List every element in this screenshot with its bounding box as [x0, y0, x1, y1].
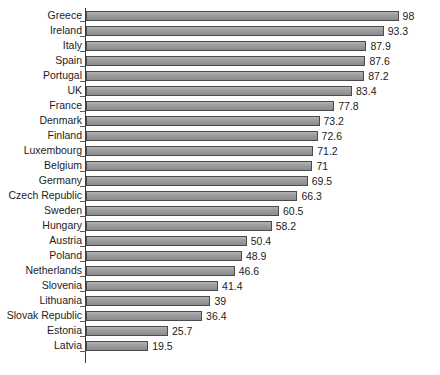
- bar-chart: Greece98Ireland93.3Italy87.9Spain87.6Por…: [0, 0, 440, 375]
- bar-value-label: 98: [403, 10, 415, 22]
- category-label: Hungary: [0, 220, 82, 231]
- bar-row: Lithuania39: [0, 295, 440, 310]
- bar-value-label: 66.3: [301, 190, 321, 202]
- category-label: Latvia: [0, 340, 82, 351]
- bar-row: Slovak Republic36.4: [0, 310, 440, 325]
- y-axis-tick: [80, 246, 85, 247]
- y-axis-tick: [80, 111, 85, 112]
- category-label: France: [0, 100, 82, 111]
- bar-row: Luxembourg71.2: [0, 145, 440, 160]
- bar-row: Denmark73.2: [0, 115, 440, 130]
- y-axis-tick: [80, 126, 85, 127]
- category-label: Sweden: [0, 205, 82, 216]
- y-axis-tick: [80, 21, 85, 22]
- bar-row: Ireland93.3: [0, 25, 440, 40]
- category-label: Italy: [0, 40, 82, 51]
- category-label: Ireland: [0, 25, 82, 36]
- bar-row: Belgium71: [0, 160, 440, 175]
- bar-value-label: 71.2: [317, 145, 337, 157]
- bar: [86, 221, 272, 231]
- bar: [86, 56, 365, 66]
- y-axis-tick: [80, 261, 85, 262]
- bar-value-label: 87.6: [369, 55, 389, 67]
- y-axis-tick: [80, 231, 85, 232]
- bar-value-label: 58.2: [276, 220, 296, 232]
- bar-row: Portugal87.2: [0, 70, 440, 85]
- bar-row: UK83.4: [0, 85, 440, 100]
- bar: [86, 11, 399, 21]
- bar-row: Germany69.5: [0, 175, 440, 190]
- bar: [86, 116, 320, 126]
- category-label: Belgium: [0, 160, 82, 171]
- bar: [86, 266, 235, 276]
- y-axis-tick: [80, 36, 85, 37]
- bar-value-label: 46.6: [239, 265, 259, 277]
- bar-value-label: 77.8: [338, 100, 358, 112]
- y-axis-tick: [80, 51, 85, 52]
- bar: [86, 206, 279, 216]
- bar-row: Czech Republic66.3: [0, 190, 440, 205]
- category-label: Denmark: [0, 115, 82, 126]
- y-axis-tick: [80, 66, 85, 67]
- bar-row: Spain87.6: [0, 55, 440, 70]
- y-axis-tick: [80, 321, 85, 322]
- bar-value-label: 50.4: [251, 235, 271, 247]
- bar: [86, 131, 318, 141]
- category-label: Slovenia: [0, 280, 82, 291]
- bar-row: Latvia19.5: [0, 340, 440, 355]
- bar: [86, 146, 313, 156]
- bar-value-label: 19.5: [152, 340, 172, 352]
- bar-row: Slovenia41.4: [0, 280, 440, 295]
- y-axis-tick: [80, 306, 85, 307]
- bar-row: Italy87.9: [0, 40, 440, 55]
- bar-value-label: 69.5: [312, 175, 332, 187]
- y-axis-tick: [80, 171, 85, 172]
- category-label: UK: [0, 85, 82, 96]
- category-label: Germany: [0, 175, 82, 186]
- category-label: Austria: [0, 235, 82, 246]
- bar: [86, 86, 352, 96]
- bar: [86, 176, 308, 186]
- y-axis-tick: [80, 156, 85, 157]
- bar-row: Poland48.9: [0, 250, 440, 265]
- bar-value-label: 36.4: [206, 310, 226, 322]
- bar-value-label: 87.2: [368, 70, 388, 82]
- category-label: Netherlands: [0, 265, 82, 276]
- bar-value-label: 71: [316, 160, 328, 172]
- bar-value-label: 83.4: [356, 85, 376, 97]
- bar-row: Sweden60.5: [0, 205, 440, 220]
- bar: [86, 26, 384, 36]
- bar-row: France77.8: [0, 100, 440, 115]
- bar-value-label: 48.9: [246, 250, 266, 262]
- category-label: Estonia: [0, 325, 82, 336]
- bar-value-label: 60.5: [283, 205, 303, 217]
- bar-row: Hungary58.2: [0, 220, 440, 235]
- bar-value-label: 39: [214, 295, 226, 307]
- plot-area: Greece98Ireland93.3Italy87.9Spain87.6Por…: [0, 0, 440, 375]
- y-axis-tick: [80, 291, 85, 292]
- category-label: Greece: [0, 10, 82, 21]
- bar: [86, 41, 366, 51]
- bar-row: Austria50.4: [0, 235, 440, 250]
- bar: [86, 251, 242, 261]
- y-axis-tick: [80, 141, 85, 142]
- bar: [86, 341, 148, 351]
- bar: [86, 191, 297, 201]
- category-label: Lithuania: [0, 295, 82, 306]
- category-label: Luxembourg: [0, 145, 82, 156]
- category-label: Finland: [0, 130, 82, 141]
- y-axis-tick: [80, 201, 85, 202]
- category-label: Slovak Republic: [0, 310, 82, 321]
- category-label: Czech Republic: [0, 190, 82, 201]
- bar: [86, 236, 247, 246]
- bar-value-label: 41.4: [222, 280, 242, 292]
- bar-value-label: 73.2: [324, 115, 344, 127]
- category-label: Spain: [0, 55, 82, 66]
- bar: [86, 326, 168, 336]
- y-axis-tick: [80, 276, 85, 277]
- bar: [86, 161, 312, 171]
- category-label: Poland: [0, 250, 82, 261]
- bar: [86, 281, 218, 291]
- bar-value-label: 93.3: [388, 25, 408, 37]
- bar: [86, 296, 210, 306]
